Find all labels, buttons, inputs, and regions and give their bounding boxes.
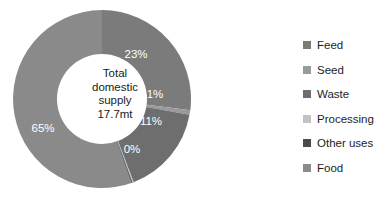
legend-label: Processing — [317, 113, 374, 125]
legend-label: Food — [317, 162, 343, 174]
center-line-4: 17.7mt — [62, 108, 168, 122]
legend-item-waste[interactable]: Waste — [303, 82, 384, 107]
legend-item-seed[interactable]: Seed — [303, 58, 384, 83]
legend-label: Other uses — [317, 137, 373, 149]
slice-label-processing: 0% — [124, 143, 141, 155]
legend-item-food[interactable]: Food — [303, 156, 384, 181]
legend-swatch-icon — [303, 115, 311, 123]
legend-swatch-icon — [303, 139, 311, 147]
legend-swatch-icon — [303, 164, 311, 172]
legend-item-processing[interactable]: Processing — [303, 107, 384, 132]
donut-chart-figure: 23% 1% 11% 0% 65% Total domestic supply … — [0, 0, 384, 198]
legend-label: Waste — [317, 88, 349, 100]
center-line-2: domestic — [62, 81, 168, 95]
legend-swatch-icon — [303, 41, 311, 49]
donut-chart-plot-area: 23% 1% 11% 0% 65% Total domestic supply … — [13, 10, 191, 188]
center-line-3: supply — [62, 94, 168, 108]
legend-swatch-icon — [303, 66, 311, 74]
legend-swatch-icon — [303, 90, 311, 98]
legend-label: Seed — [317, 64, 344, 76]
chart-legend: Feed Seed Waste Processing Other uses Fo… — [303, 33, 384, 180]
legend-label: Feed — [317, 39, 343, 51]
slice-label-feed: 23% — [124, 48, 147, 60]
legend-item-feed[interactable]: Feed — [303, 33, 384, 58]
legend-item-other-uses[interactable]: Other uses — [303, 131, 384, 156]
slice-label-food: 65% — [31, 122, 54, 134]
center-line-1: Total — [62, 67, 168, 81]
donut-center-label: Total domestic supply 17.7mt — [62, 67, 168, 121]
